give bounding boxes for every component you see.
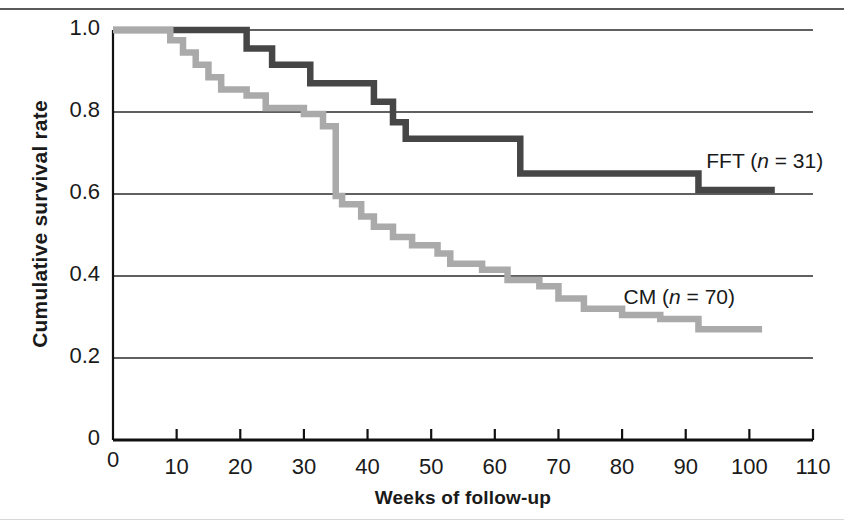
x-tick-label-20: 20: [210, 454, 270, 480]
figure-canvas: 00.20.40.60.81.0010203040506070809010011…: [0, 0, 844, 522]
x-tick-label-70: 70: [528, 454, 588, 480]
x-tick-label-80: 80: [592, 454, 652, 480]
x-tick-label-30: 30: [274, 454, 334, 480]
series-label-cm: CM (n = 70): [624, 285, 735, 309]
series-line-fft: [113, 30, 775, 190]
survival-plot: [0, 0, 844, 522]
x-tick-marks-group: [113, 429, 813, 440]
x-tick-label-110: 110: [783, 454, 843, 480]
y-tick-label-0.6: 0.6: [14, 179, 100, 205]
series-label-fft: FFT (n = 31): [706, 149, 823, 173]
x-tick-label-100: 100: [719, 454, 779, 480]
x-tick-label-0: 0: [83, 447, 143, 473]
x-tick-label-50: 50: [401, 454, 461, 480]
x-tick-label-60: 60: [465, 454, 525, 480]
y-tick-label-0.8: 0.8: [14, 97, 100, 123]
x-axis-title: Weeks of follow-up: [113, 487, 813, 509]
y-axis-title: Cumulative survival rate: [28, 34, 52, 414]
x-tick-label-40: 40: [338, 454, 398, 480]
y-tick-label-1.0: 1.0: [14, 15, 100, 41]
x-tick-label-90: 90: [656, 454, 716, 480]
y-tick-label-0.4: 0.4: [14, 261, 100, 287]
x-tick-label-10: 10: [147, 454, 207, 480]
y-tick-label-0.2: 0.2: [14, 343, 100, 369]
